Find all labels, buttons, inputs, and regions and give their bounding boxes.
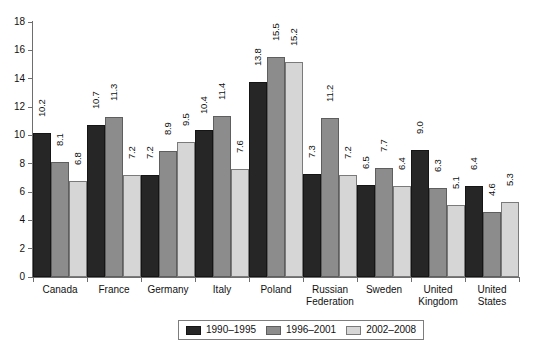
bar[interactable] — [375, 168, 393, 277]
x-axis-category-label: Italy — [195, 284, 249, 296]
bar[interactable] — [159, 151, 177, 277]
bar[interactable] — [501, 202, 519, 277]
bar-value-label: 9.5 — [181, 114, 191, 127]
y-axis-tick-label: 8 — [19, 157, 25, 170]
bar-value-label: 6.4 — [397, 158, 407, 171]
bar-value-label: 8.1 — [55, 134, 65, 147]
plot-area: 024681012141618 10.28.16.810.711.37.27.2… — [33, 22, 519, 277]
bar[interactable] — [105, 117, 123, 277]
bar-value-label: 10.2 — [37, 99, 47, 117]
x-axis-group-tick — [33, 277, 34, 282]
x-axis-group-tick — [303, 277, 304, 282]
bar[interactable] — [231, 169, 249, 277]
bar[interactable] — [447, 205, 465, 277]
x-axis-group-tick — [465, 277, 466, 282]
y-axis-tick-label: 18 — [14, 15, 25, 28]
bar[interactable] — [321, 118, 339, 277]
bar-value-label: 6.5 — [361, 156, 371, 169]
bar-value-label: 7.7 — [379, 139, 389, 152]
bar-value-label: 6.3 — [433, 159, 443, 172]
chart-legend: 1990–19951996–20012002–2008 — [178, 320, 424, 340]
bar-value-label: 10.7 — [91, 92, 101, 110]
bar[interactable] — [87, 125, 105, 277]
bar[interactable] — [429, 188, 447, 277]
legend-swatch-icon — [186, 326, 201, 335]
bar[interactable] — [303, 174, 321, 277]
bar[interactable] — [483, 212, 501, 277]
bar-group: 10.411.47.6 — [195, 22, 249, 277]
y-axis-tick-label: 16 — [14, 43, 25, 56]
x-axis-group-tick — [519, 277, 520, 282]
x-axis-group-tick — [87, 277, 88, 282]
bar-value-label: 6.8 — [73, 152, 83, 165]
bar-value-label: 7.6 — [235, 141, 245, 154]
bar[interactable] — [195, 130, 213, 277]
x-axis-group-tick — [249, 277, 250, 282]
x-axis-category-label: United Kingdom — [411, 284, 465, 308]
bar-group: 6.44.65.3 — [465, 22, 519, 277]
x-axis-category-label: Russian Federation — [303, 284, 357, 308]
x-axis-category-label: Sweden — [357, 284, 411, 296]
bar-value-label: 5.3 — [505, 173, 515, 186]
legend-swatch-icon — [346, 326, 361, 335]
y-axis-tick-label: 6 — [19, 185, 25, 198]
bar-value-label: 7.3 — [307, 145, 317, 158]
x-axis-category-label: Canada — [33, 284, 87, 296]
x-axis-group-tick — [357, 277, 358, 282]
bar[interactable] — [249, 82, 267, 278]
bar-group: 13.815.515.2 — [249, 22, 303, 277]
bar[interactable] — [69, 181, 87, 277]
bar[interactable] — [267, 57, 285, 277]
legend-label: 1996–2001 — [286, 324, 336, 336]
bar-value-label: 5.1 — [451, 176, 461, 189]
bar-value-label: 13.8 — [253, 48, 263, 66]
bar[interactable] — [357, 185, 375, 277]
bar[interactable] — [141, 175, 159, 277]
bar-group: 6.57.76.4 — [357, 22, 411, 277]
bar-chart: 024681012141618 10.28.16.810.711.37.27.2… — [0, 0, 546, 349]
bar-value-label: 7.2 — [343, 146, 353, 159]
x-axis-group-tick — [195, 277, 196, 282]
bar-value-label: 8.9 — [163, 122, 173, 135]
x-axis-category-label: Poland — [249, 284, 303, 296]
legend-swatch-icon — [266, 326, 281, 335]
bar-value-label: 11.3 — [109, 84, 119, 101]
legend-item[interactable]: 2002–2008 — [346, 324, 416, 336]
bar-value-label: 10.4 — [199, 96, 209, 114]
x-axis-group-tick — [141, 277, 142, 282]
bar-value-label: 11.2 — [325, 85, 335, 102]
legend-label: 1990–1995 — [206, 324, 256, 336]
bar-group: 10.711.37.2 — [87, 22, 141, 277]
bar-value-label: 15.2 — [289, 28, 299, 46]
bar[interactable] — [411, 150, 429, 278]
y-axis-tick-label: 2 — [19, 242, 25, 255]
bar[interactable] — [33, 133, 51, 278]
bar-value-label: 6.4 — [469, 158, 479, 171]
bar-value-label: 11.4 — [217, 83, 227, 100]
bar-group: 7.28.99.5 — [141, 22, 195, 277]
y-axis-tick-label: 12 — [14, 100, 25, 113]
y-axis-tick-label: 0 — [19, 270, 25, 283]
bar[interactable] — [339, 175, 357, 277]
legend-label: 2002–2008 — [366, 324, 416, 336]
legend-item[interactable]: 1990–1995 — [186, 324, 256, 336]
bar[interactable] — [393, 186, 411, 277]
x-axis-category-label: France — [87, 284, 141, 296]
bar[interactable] — [285, 62, 303, 277]
y-axis-tick-label: 14 — [14, 72, 25, 85]
bar-value-label: 15.5 — [271, 24, 281, 42]
bar-value-label: 9.0 — [415, 121, 425, 134]
bar-group: 7.311.27.2 — [303, 22, 357, 277]
y-axis-tick-label: 4 — [19, 213, 25, 226]
x-axis-group-tick — [411, 277, 412, 282]
bar[interactable] — [465, 186, 483, 277]
bar[interactable] — [51, 162, 69, 277]
bar-value-label: 4.6 — [487, 183, 497, 196]
bar[interactable] — [123, 175, 141, 277]
bar[interactable] — [213, 116, 231, 278]
bar[interactable] — [177, 142, 195, 277]
x-axis-category-label: Germany — [141, 284, 195, 296]
bar-group: 9.06.35.1 — [411, 22, 465, 277]
bar-value-label: 7.2 — [145, 146, 155, 159]
legend-item[interactable]: 1996–2001 — [266, 324, 336, 336]
